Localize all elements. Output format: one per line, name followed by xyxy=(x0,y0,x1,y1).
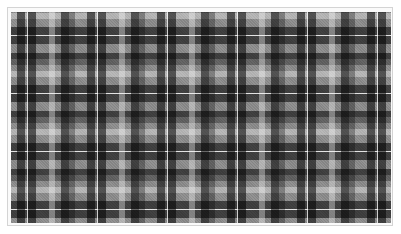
tartan-pattern-image xyxy=(11,12,391,223)
